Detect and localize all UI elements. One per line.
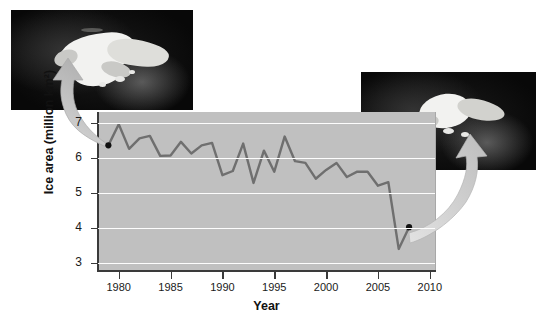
gridline-y-3	[98, 263, 435, 265]
x-tick-label-2010: 2010	[410, 281, 450, 293]
x-tick-2005	[378, 271, 380, 279]
y-tick-label-3: 3	[52, 255, 82, 269]
y-tick-3	[91, 263, 98, 265]
x-tick-1985	[171, 271, 173, 279]
y-tick-4	[91, 228, 98, 230]
gridline-y-5	[98, 193, 435, 195]
ice-speck-right-b	[461, 132, 469, 137]
y-axis-line	[97, 112, 99, 271]
x-tick-label-1990: 1990	[202, 281, 242, 293]
y-tick-label-7: 7	[52, 115, 82, 129]
x-tick-label-2005: 2005	[358, 281, 398, 293]
ice-speck-left-b	[99, 82, 106, 87]
x-axis-line	[97, 270, 436, 272]
ice-speck-left-a	[115, 76, 125, 82]
x-tick-1980	[119, 271, 121, 279]
ice-speck-right-a	[443, 128, 454, 134]
x-tick-1990	[222, 271, 224, 279]
y-tick-label-5: 5	[52, 185, 82, 199]
y-tick-label-4: 4	[52, 220, 82, 234]
x-tick-label-1985: 1985	[151, 281, 191, 293]
y-axis-title-text: Ice area (million km²)	[42, 70, 56, 194]
x-tick-label-1980: 1980	[99, 281, 139, 293]
ice-speck-left-c	[129, 70, 135, 74]
satellite-image-left	[11, 10, 193, 110]
x-tick-label-1995: 1995	[254, 281, 294, 293]
figure-root: Ice area (million km²) Year 34567 198019…	[0, 0, 541, 334]
x-tick-label-2000: 2000	[306, 281, 346, 293]
x-axis-title: Year	[98, 299, 435, 313]
x-tick-2000	[326, 271, 328, 279]
x-tick-2010	[430, 271, 432, 279]
y-tick-label-6: 6	[52, 150, 82, 164]
gridline-y-6	[98, 158, 435, 160]
y-tick-6	[91, 158, 98, 160]
gridline-y-7	[98, 123, 435, 125]
y-tick-5	[91, 193, 98, 195]
y-tick-7	[91, 123, 98, 125]
gridline-y-4	[98, 228, 435, 230]
ice-speck-left-d	[81, 28, 103, 32]
x-tick-1995	[274, 271, 276, 279]
